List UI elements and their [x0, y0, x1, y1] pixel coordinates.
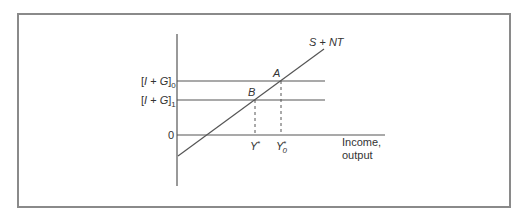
- x-axis-label-line2: output: [342, 149, 373, 161]
- level-1-bracket: [I + G]: [141, 94, 171, 106]
- equilibrium-diagram: S + NT [I + G]0 [I + G]1 0 A B Y* Y*0 In…: [0, 0, 528, 219]
- level-label-1: [I + G]1: [141, 94, 176, 109]
- point-b-label: B: [248, 86, 255, 98]
- y-star-label: Y*: [250, 139, 260, 152]
- point-a-label: A: [272, 67, 280, 79]
- x-axis-label-line1: Income,: [342, 136, 381, 148]
- level-label-0: [I + G]0: [141, 75, 176, 90]
- curve-label: S + NT: [309, 36, 345, 48]
- y0-star-label: Y*0: [276, 139, 287, 155]
- zero-label: 0: [168, 129, 174, 141]
- level-0-bracket: [I + G]: [141, 75, 171, 87]
